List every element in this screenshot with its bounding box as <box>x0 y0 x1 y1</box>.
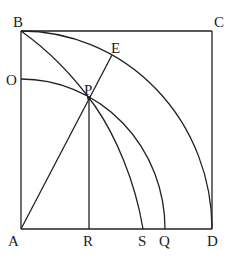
curve-BPS <box>21 31 143 229</box>
label-R: R <box>83 233 93 249</box>
arc-OPQ <box>21 79 165 229</box>
label-A: A <box>8 233 19 249</box>
segment-AE <box>21 55 112 229</box>
arc-BED <box>21 31 212 229</box>
label-O: O <box>6 72 17 88</box>
label-E: E <box>111 40 120 56</box>
label-Q: Q <box>159 233 170 249</box>
label-D: D <box>207 233 218 249</box>
label-P: P <box>84 82 92 98</box>
label-S: S <box>138 233 146 249</box>
label-B: B <box>13 14 23 30</box>
label-C: C <box>214 14 224 30</box>
geometry-diagram: B C E O P A R S Q D <box>0 0 238 259</box>
